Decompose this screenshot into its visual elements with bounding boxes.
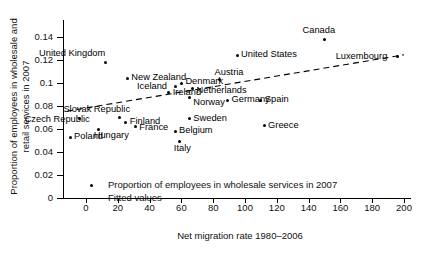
data-point[interactable] xyxy=(263,124,266,127)
data-point-label: Luxembourg xyxy=(336,52,388,62)
x-axis-title: Net migration rate 1980–2006 xyxy=(150,230,330,241)
data-point-label: Austria xyxy=(215,68,244,78)
data-point-label: United Kingdom xyxy=(39,49,105,59)
data-point-label: Iceland xyxy=(137,82,167,92)
y-tick xyxy=(57,152,63,153)
y-axis-title: Proportion of employees in wholesale and… xyxy=(8,12,31,202)
data-point-label: Slovak Republic xyxy=(63,105,130,115)
data-point-label: Belgium xyxy=(179,126,213,136)
data-point-label: Spain xyxy=(265,95,289,105)
data-point-label: United States xyxy=(241,50,297,60)
y-tick xyxy=(57,83,63,84)
data-point[interactable] xyxy=(69,136,72,139)
chart-figure: 00.020.040.060.080.10.120.14 02040608010… xyxy=(0,0,434,254)
scatter-plot-area: 00.020.040.060.080.10.120.14 02040608010… xyxy=(0,0,434,254)
legend-dot-icon xyxy=(78,179,104,190)
data-point-label: Czech Republic xyxy=(25,115,90,125)
data-point[interactable] xyxy=(118,116,121,119)
data-point-label: Canada xyxy=(303,26,336,36)
data-point[interactable] xyxy=(236,54,239,57)
legend-item: Fitted values xyxy=(78,191,337,204)
data-point[interactable] xyxy=(167,91,170,94)
data-point[interactable] xyxy=(104,61,107,64)
y-tick xyxy=(57,198,63,199)
y-tick xyxy=(57,175,63,176)
data-point-label: France xyxy=(139,123,168,133)
data-point[interactable] xyxy=(188,96,191,99)
data-point[interactable] xyxy=(124,121,127,124)
data-point[interactable] xyxy=(396,55,399,58)
y-tick xyxy=(57,129,63,130)
legend-dashed-line-icon xyxy=(78,192,104,203)
legend-item: Proportion of employees in wholesale ser… xyxy=(78,178,337,191)
chart-legend: Proportion of employees in wholesale ser… xyxy=(78,178,337,204)
fitted-values-line xyxy=(0,0,434,254)
y-tick xyxy=(57,60,63,61)
legend-label: Proportion of employees in wholesale ser… xyxy=(104,179,337,190)
data-point-label: Sweden xyxy=(193,114,227,124)
data-point[interactable] xyxy=(126,77,129,80)
data-point[interactable] xyxy=(226,99,229,102)
y-tick xyxy=(57,37,63,38)
data-point[interactable] xyxy=(180,82,183,85)
legend-label: Fitted values xyxy=(104,192,162,203)
data-point[interactable] xyxy=(174,130,177,133)
data-point[interactable] xyxy=(323,38,326,41)
data-point-label: Hungary xyxy=(94,131,129,141)
data-point-label: Italy xyxy=(174,144,191,154)
data-point[interactable] xyxy=(134,125,137,128)
data-point-label: Greece xyxy=(268,121,299,131)
data-point-label: Norway xyxy=(193,98,225,108)
data-point[interactable] xyxy=(188,117,191,120)
x-tick-label: 200 xyxy=(384,203,424,213)
y-tick xyxy=(57,106,63,107)
